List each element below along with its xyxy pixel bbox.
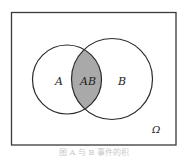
venn-diagram: A AB B Ω xyxy=(0,0,188,157)
intersection-label: AB xyxy=(79,75,96,88)
universe-label: Ω xyxy=(151,124,160,135)
set-b-label: B xyxy=(117,75,126,88)
set-a-label: A xyxy=(54,75,63,88)
figure-caption: 图 A 与 B 事件的积 xyxy=(0,148,188,157)
